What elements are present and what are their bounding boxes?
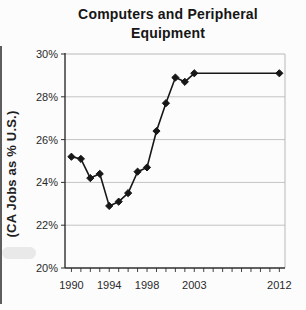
chart-title: Computers and Peripheral Equipment — [28, 5, 306, 43]
y-tick-label: 24% — [36, 176, 58, 188]
line-chart: 20%22%24%26%28%30%19901994199820032012 — [0, 0, 306, 310]
y-tick-label: 20% — [36, 262, 58, 274]
data-point-marker — [276, 70, 283, 77]
data-point-marker — [77, 155, 84, 162]
data-point-marker — [87, 175, 94, 182]
data-point-marker — [106, 202, 113, 209]
x-tick-label: 1990 — [59, 279, 83, 291]
data-point-marker — [134, 168, 141, 175]
y-tick-label: 30% — [36, 48, 58, 60]
data-point-marker — [68, 153, 75, 160]
x-tick-label: 2012 — [267, 279, 291, 291]
data-point-marker — [143, 164, 150, 171]
x-tick-label: 2003 — [182, 279, 206, 291]
y-tick-label: 26% — [36, 134, 58, 146]
x-tick-label: 1998 — [135, 279, 159, 291]
chart-title-line2: Equipment — [28, 24, 306, 43]
scan-edge-artifact — [0, 46, 2, 304]
data-point-marker — [162, 100, 169, 107]
data-point-marker — [153, 127, 160, 134]
y-axis-title: (CA Jobs as % U.S.) — [4, 68, 24, 280]
y-tick-label: 28% — [36, 91, 58, 103]
data-point-marker — [96, 170, 103, 177]
y-tick-label: 22% — [36, 219, 58, 231]
x-tick-label: 1994 — [97, 279, 121, 291]
chart-title-line1: Computers and Peripheral — [28, 5, 306, 24]
data-point-marker — [172, 74, 179, 81]
chart-page: Computers and Peripheral Equipment (CA J… — [0, 0, 306, 310]
